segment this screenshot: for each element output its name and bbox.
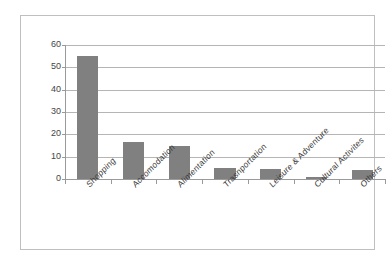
y-tick-label: 60	[51, 40, 61, 49]
bar-chart-figure: 0102030405060 ShoppingAccomodationAlimen…	[0, 0, 391, 268]
y-tick-label: 30	[51, 107, 61, 116]
y-tick-label: 50	[51, 62, 61, 71]
chart-frame: 0102030405060 ShoppingAccomodationAlimen…	[20, 15, 375, 250]
x-axis-category-labels: ShoppingAccomodationAlimentationTrasnpor…	[65, 182, 385, 262]
y-tick-label: 40	[51, 85, 61, 94]
y-tick-label: 0	[56, 174, 61, 183]
bar	[77, 56, 98, 179]
y-tick-label: 20	[51, 129, 61, 138]
y-tick-label: 10	[51, 152, 61, 161]
x-tick-mark	[385, 180, 386, 184]
y-axis-tick-labels: 0102030405060	[41, 45, 61, 180]
